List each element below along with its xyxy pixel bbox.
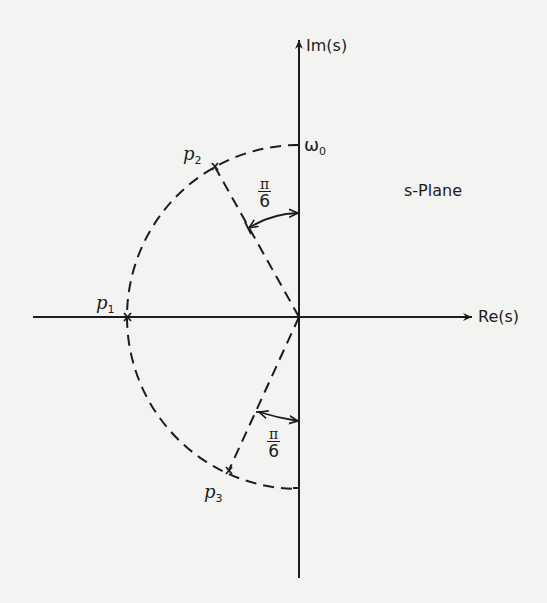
angle-numerator: π: [258, 177, 271, 192]
pole-sub: 2: [195, 154, 202, 167]
angle-label-upper: π 6: [258, 177, 271, 211]
pole-label-p1: p1: [96, 294, 115, 312]
radial-line-p2: [215, 167, 299, 317]
real-axis-text: Re(s): [478, 307, 519, 326]
plane-title-text: s-Plane: [404, 181, 462, 200]
pole-sub: 1: [108, 303, 115, 316]
pole-name: p: [204, 481, 216, 502]
radial-line-p3: [229, 317, 299, 470]
angle-label-lower: π 6: [267, 427, 280, 461]
angle-arc-lower: [259, 412, 298, 421]
angle-numerator: π: [267, 427, 280, 442]
plane-title: s-Plane: [404, 183, 462, 199]
pole-sub: 3: [216, 492, 223, 505]
omega-symbol: ω: [304, 134, 319, 155]
imag-axis-text: Im(s): [306, 36, 347, 55]
s-plane-diagram: [0, 0, 547, 603]
omega-subscript: 0: [319, 145, 326, 158]
angle-denominator: 6: [259, 192, 270, 211]
pole-label-p2: p2: [183, 145, 202, 163]
omega0-label: ω0: [304, 136, 326, 154]
real-axis-label: Re(s): [478, 309, 519, 325]
pole-label-p3: p3: [204, 483, 223, 501]
pole-name: p: [96, 292, 108, 313]
angle-denominator: 6: [268, 442, 279, 461]
pole-name: p: [183, 143, 195, 164]
imag-axis-label: Im(s): [306, 38, 347, 54]
angle-arc-upper: [249, 213, 298, 228]
